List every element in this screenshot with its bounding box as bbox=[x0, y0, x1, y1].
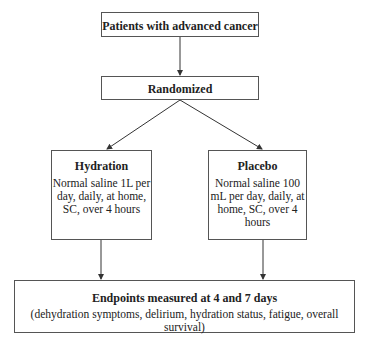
arrow-randomized-to-hydration bbox=[107, 100, 180, 149]
hydration-arm-node: Hydration Normal saline 1L per day, dail… bbox=[51, 150, 152, 240]
placebo-title: Placebo bbox=[209, 159, 306, 174]
placebo-arm-node: Placebo Normal saline 100 mL per day, da… bbox=[208, 150, 307, 240]
placebo-description: Normal saline 100 mL per day, daily, at … bbox=[209, 177, 306, 229]
hydration-title: Hydration bbox=[52, 159, 151, 174]
endpoints-title: Endpoints measured at 4 and 7 days bbox=[15, 291, 354, 306]
randomization-node: Randomized bbox=[101, 76, 259, 100]
endpoints-node: Endpoints measured at 4 and 7 days (dehy… bbox=[14, 280, 355, 333]
endpoints-description: (dehydration symptoms, delirium, hydrati… bbox=[15, 308, 354, 334]
hydration-description: Normal saline 1L per day, daily, at home… bbox=[52, 177, 151, 216]
population-label: Patients with advanced cancer bbox=[102, 19, 258, 33]
population-node: Patients with advanced cancer bbox=[101, 12, 259, 37]
randomization-label: Randomized bbox=[148, 82, 213, 96]
arrow-randomized-to-placebo bbox=[180, 100, 262, 149]
